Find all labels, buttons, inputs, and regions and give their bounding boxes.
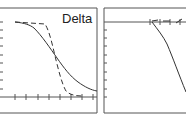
left-panel-title: Delta (62, 11, 92, 26)
right-solid-series (152, 22, 186, 92)
left-solid-series (15, 22, 97, 91)
left-dashed-series (15, 22, 82, 96)
chart-canvas (0, 0, 186, 121)
right-panel (104, 8, 186, 113)
